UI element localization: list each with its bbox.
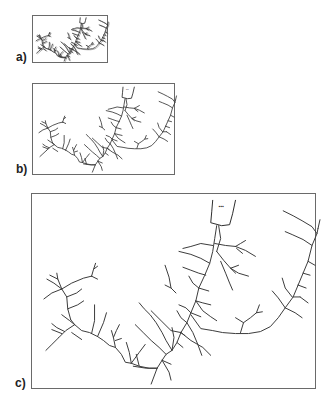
river-branch [96, 39, 99, 43]
river-branch [115, 339, 121, 341]
river-branch [166, 100, 176, 126]
river-branch [165, 265, 176, 293]
river-branch [66, 139, 70, 150]
river-branch [318, 220, 320, 229]
river-branch [75, 151, 78, 152]
river-branches [44, 211, 320, 384]
outlet-reservoir-shape [80, 17, 86, 23]
river-branch [221, 261, 233, 290]
river-branch [236, 318, 244, 323]
river-branch [159, 137, 167, 142]
river-branch [241, 305, 260, 333]
river-branch [134, 108, 144, 113]
panel-label: b) [16, 163, 27, 175]
river-branch [113, 325, 119, 338]
river-branch [191, 285, 298, 334]
river-branch [308, 261, 315, 265]
river-branch [151, 226, 217, 384]
river-branch [136, 354, 139, 366]
river-branch [125, 99, 127, 111]
river-branch [46, 338, 59, 351]
river-branch [105, 138, 110, 144]
river-branch [37, 50, 40, 53]
river-branch [92, 276, 98, 279]
river-branch [158, 123, 163, 132]
river-branch [236, 246, 256, 256]
river-branch [298, 285, 306, 288]
river-branch [183, 267, 206, 275]
river-branch [158, 92, 175, 103]
river-branch [236, 241, 246, 247]
panel-a-frame: ▪▪▪ [32, 15, 108, 63]
panel-label: a) [16, 51, 27, 63]
river-branch [51, 134, 59, 138]
outlet-label: ▪▪▪ [219, 204, 225, 209]
river-branch [217, 226, 221, 252]
river-branch [189, 276, 199, 288]
river-branch [116, 128, 121, 129]
river-branch [215, 243, 236, 246]
river-branch [53, 148, 58, 151]
river-branch [46, 145, 54, 151]
river-branch [92, 305, 95, 334]
river-branch [74, 145, 77, 151]
river-branches [36, 20, 109, 62]
river-branch [40, 151, 46, 157]
river-branch [50, 128, 57, 132]
river-branch [112, 126, 165, 149]
river-branch [92, 263, 96, 276]
river-branch [285, 308, 302, 318]
river-branch [92, 99, 125, 172]
river-branch-detail [50, 36, 52, 37]
river-branch [298, 229, 318, 285]
river-branch [167, 132, 171, 135]
river-branch [106, 135, 112, 139]
river-branch [70, 48, 71, 53]
river-branch [62, 276, 92, 289]
river-network-diagram: ▪▪▪ [33, 16, 107, 62]
river-branch-detail [78, 39, 81, 40]
river-network-diagram: ▪▪▪ [32, 194, 315, 388]
river-branch [181, 333, 185, 336]
panel-c-frame: ▪▪▪ [31, 193, 316, 389]
river-branch [159, 101, 172, 107]
river-branch [108, 22, 109, 24]
river-branch [44, 289, 62, 299]
river-branch [134, 141, 138, 143]
river-branch [49, 42, 50, 49]
river-branch [108, 118, 119, 122]
river-branch [300, 297, 308, 303]
panel-b-frame: ▪▪▪ [32, 83, 175, 175]
river-branch [199, 288, 209, 291]
river-branch [183, 243, 213, 248]
outlet-label: ▪▪▪ [126, 89, 129, 92]
river-branch [171, 115, 174, 117]
river-branch [50, 275, 58, 279]
river-branch [179, 305, 191, 313]
river-branch [175, 96, 176, 100]
river-branch [231, 268, 249, 276]
river-branch [166, 126, 170, 127]
river-branch [66, 150, 96, 165]
river-branch [67, 289, 82, 297]
river-branch [181, 333, 211, 356]
river-branch [256, 312, 262, 313]
river-branch [105, 153, 108, 155]
river-branch [98, 337, 158, 369]
river-branch-detail [106, 33, 108, 34]
river-branch [153, 129, 159, 137]
river-branch [135, 325, 166, 355]
river-branch [59, 325, 75, 338]
river-branch [52, 330, 62, 334]
river-branch [108, 107, 123, 109]
river-branch [132, 117, 136, 118]
river-branch [39, 128, 48, 133]
river-branch [71, 320, 98, 337]
panel-label: c) [15, 377, 26, 389]
river-branch [48, 122, 63, 128]
river-branch [98, 313, 107, 337]
river-branch [63, 122, 66, 123]
river-branch [179, 251, 210, 263]
river-branch-detail [109, 23, 110, 25]
river-branch [134, 106, 139, 109]
